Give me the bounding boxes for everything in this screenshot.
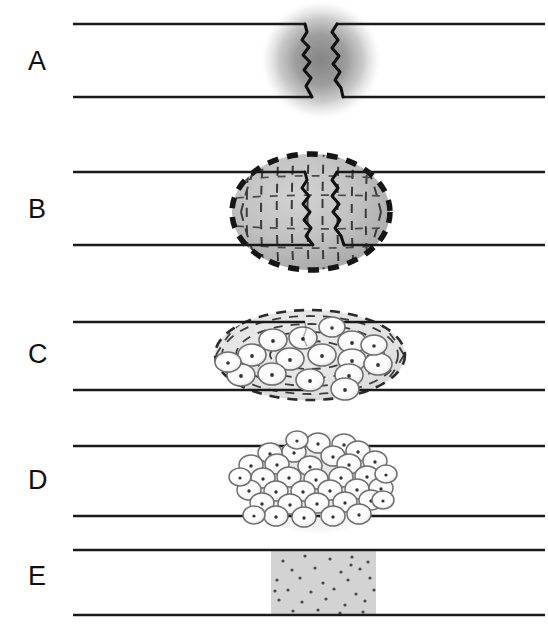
panel-b <box>73 148 545 276</box>
panel-c <box>73 310 545 400</box>
panel-label-e: E <box>28 563 47 590</box>
panel-a <box>73 0 545 121</box>
hematoma-blur <box>259 0 383 121</box>
fracture-healing-figure: A B C D E <box>0 0 548 628</box>
panel-label-d: D <box>28 467 48 494</box>
diagram-canvas <box>0 0 548 628</box>
panel-label-b: B <box>28 196 47 223</box>
panel-label-c: C <box>28 341 48 368</box>
panel-d <box>73 431 545 533</box>
panel-e <box>73 550 545 615</box>
panel-label-a: A <box>28 48 47 75</box>
